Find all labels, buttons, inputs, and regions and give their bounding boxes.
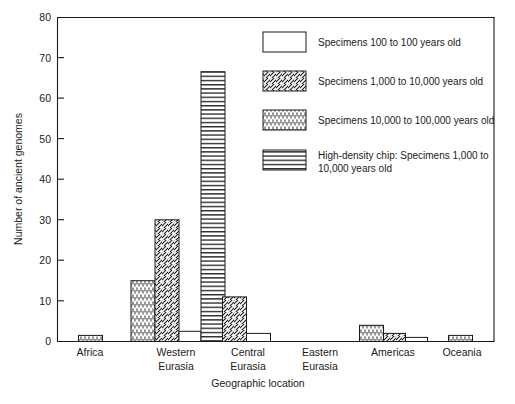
legend-label-specimens-10k-100k: Specimens 10,000 to 100,000 years old bbox=[318, 115, 494, 126]
bar-western-eurasia-specimens-1k-10k bbox=[155, 220, 179, 342]
cat-label-africa: Africa bbox=[77, 346, 104, 358]
bar-oceania-specimens-10k-100k bbox=[449, 335, 473, 341]
bar-western-eurasia-specimens-100-100 bbox=[179, 331, 201, 341]
y-tick-label: 80 bbox=[39, 11, 51, 23]
bar-group-oceania bbox=[449, 335, 473, 341]
legend-label-specimens-1k-10k: Specimens 1,000 to 10,000 years old bbox=[318, 76, 483, 87]
bar-western-eurasia-high-density-chip bbox=[201, 72, 225, 342]
y-tick-label: 30 bbox=[39, 214, 51, 226]
ancient-genomes-bar-chart: 80 70 60 50 40 bbox=[0, 0, 515, 404]
y-tick-label: 50 bbox=[39, 133, 51, 145]
y-tick-0: 0 bbox=[45, 335, 51, 347]
bar-group-africa bbox=[79, 335, 103, 341]
bar-africa-specimens-10k-100k bbox=[79, 335, 103, 341]
y-tick-label: 60 bbox=[39, 92, 51, 104]
cat-label-oceania: Oceania bbox=[442, 346, 481, 358]
bar-central-eurasia-specimens-100-100 bbox=[247, 333, 271, 341]
legend-label-high-density-chip-line1: High-density chip: Specimens 1,000 to bbox=[318, 150, 489, 161]
legend-swatch-vertical-dash bbox=[263, 110, 306, 130]
legend-swatch-horizontal-lines bbox=[263, 150, 306, 170]
x-axis-title: Geographic location bbox=[211, 377, 305, 389]
bar-americas-specimens-1k-10k bbox=[384, 333, 406, 341]
y-tick-label: 70 bbox=[39, 52, 51, 64]
bar-central-eurasia-specimens-1k-10k bbox=[223, 297, 247, 342]
legend-swatch-diagonal-hatch bbox=[263, 71, 306, 91]
bar-americas-specimens-10k-100k bbox=[360, 325, 384, 341]
y-axis-title: Number of ancient genomes bbox=[12, 113, 24, 245]
legend-swatch-blank bbox=[263, 32, 306, 52]
legend-label-specimens-100-100: Specimens 100 to 100 years old bbox=[318, 37, 461, 48]
chart-background bbox=[0, 0, 515, 404]
y-tick-label: 0 bbox=[45, 335, 51, 347]
cat-label-eastern-eurasia-line2: Eurasia bbox=[302, 360, 338, 372]
bar-western-eurasia-specimens-10k-100k bbox=[131, 281, 155, 342]
legend-label-high-density-chip-line2: 10,000 years old bbox=[318, 163, 392, 174]
y-tick-label: 40 bbox=[39, 173, 51, 185]
y-tick-label: 10 bbox=[39, 295, 51, 307]
cat-label-central-eurasia-line1: Central bbox=[231, 346, 265, 358]
cat-label-western-eurasia-line2: Eurasia bbox=[158, 360, 194, 372]
y-tick-label: 20 bbox=[39, 254, 51, 266]
chart-figure: 80 70 60 50 40 bbox=[0, 0, 515, 404]
cat-label-western-eurasia-line1: Western bbox=[157, 346, 196, 358]
y-tick-80: 80 bbox=[39, 11, 51, 23]
cat-label-eastern-eurasia-line1: Eastern bbox=[302, 346, 338, 358]
cat-label-central-eurasia-line2: Eurasia bbox=[230, 360, 266, 372]
cat-label-americas: Americas bbox=[371, 346, 415, 358]
bar-americas-specimens-100-100 bbox=[406, 337, 428, 341]
